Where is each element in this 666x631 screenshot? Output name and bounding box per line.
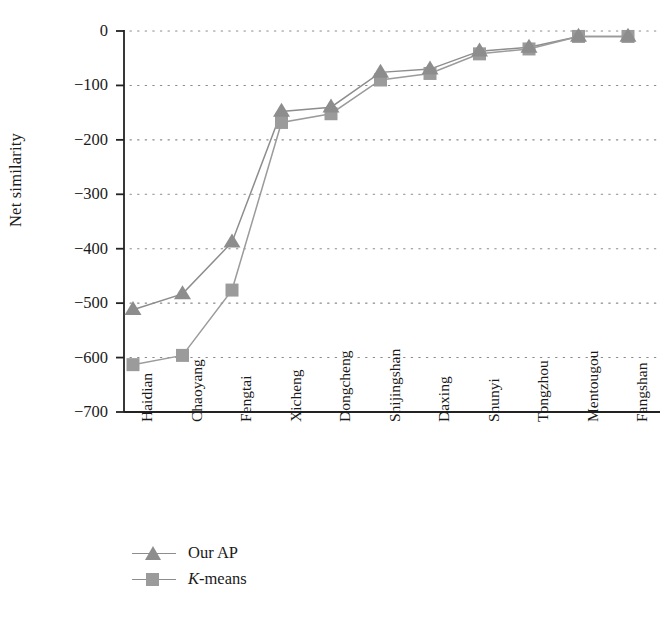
marker-k-means-haidian	[127, 358, 140, 371]
chart-plot-area	[0, 0, 666, 631]
legend-item-our-ap: Our AP	[132, 540, 247, 566]
x-tick-label-tongzhou: Tongzhou	[535, 360, 551, 422]
x-tick-label-mentougou: Mentougou	[585, 351, 601, 422]
x-tick-label-daxing: Daxing	[436, 376, 452, 422]
x-tick-label-dongcheng: Dongcheng	[337, 351, 353, 422]
legend-label-k-rest: -means	[199, 569, 247, 588]
chart-legend: Our AP K-means	[132, 540, 247, 592]
legend-item-k-means: K-means	[132, 566, 247, 592]
legend-label-our-ap: Our AP	[188, 543, 238, 563]
marker-our-ap-xicheng	[273, 103, 290, 117]
legend-label-k-italic: K	[188, 569, 199, 588]
x-tick-label-shijingshan: Shijingshan	[387, 349, 403, 422]
marker-our-ap-shijingshan	[372, 64, 389, 78]
marker-k-means-xicheng	[275, 116, 288, 129]
marker-k-means-fengtai	[226, 284, 239, 297]
x-tick-label-fengtai: Fengtai	[238, 376, 254, 423]
legend-label-k-means: K-means	[188, 569, 247, 589]
legend-marker-square-icon	[132, 569, 176, 589]
x-tick-label-xicheng: Xicheng	[288, 369, 304, 422]
marker-our-ap-fengtai	[224, 234, 241, 248]
x-tick-label-haidian: Haidian	[139, 373, 155, 422]
legend-marker-triangle-icon	[132, 543, 176, 563]
marker-our-ap-dongcheng	[323, 99, 340, 113]
x-tick-label-chaoyang: Chaoyang	[189, 359, 205, 422]
x-tick-label-fangshan: Fangshan	[634, 363, 650, 422]
x-tick-label-shunyi: Shunyi	[486, 378, 502, 422]
chart-figure: Net similarity 0−100−200−300−400−500−600…	[0, 0, 666, 631]
